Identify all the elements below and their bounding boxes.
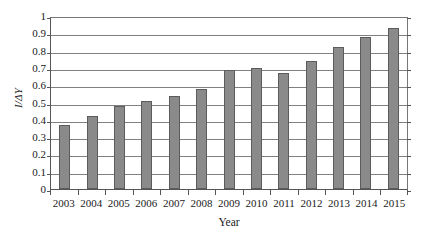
bar-2003 [59, 125, 70, 189]
x-tick-cell [133, 190, 161, 195]
x-tick-label: 2014 [353, 196, 381, 212]
y-tick-mark-right [407, 105, 411, 106]
x-tick-mark [243, 190, 244, 195]
bar-slot [78, 18, 105, 189]
bar-2005 [114, 106, 125, 189]
x-axis-tick-labels: 2003200420052006200720082009201020112012… [50, 196, 408, 212]
x-tick-label: 2007 [160, 196, 188, 212]
bar-slot [51, 18, 78, 189]
x-tick-label: 2003 [50, 196, 78, 212]
y-tick-label: 0.4 [14, 115, 46, 126]
x-tick-cell [188, 190, 216, 195]
x-tick-label: 2005 [105, 196, 133, 212]
x-tick-cell [380, 190, 408, 195]
y-tick-label: 0.8 [14, 46, 46, 57]
y-tick-label: 0 [14, 184, 46, 195]
y-tick-label: 0.1 [14, 167, 46, 178]
bar-slot [215, 18, 242, 189]
x-tick-cell [325, 190, 353, 195]
x-tick-cell [270, 190, 298, 195]
y-axis-tick-labels: 00.10.20.30.40.50.60.70.80.91 [14, 10, 46, 192]
bar-slot [106, 18, 133, 189]
y-tick-mark-right [407, 139, 411, 140]
plot-area [50, 17, 408, 190]
y-tick-label: 0.6 [14, 80, 46, 91]
x-tick-mark [407, 190, 408, 195]
y-tick-mark-right [407, 87, 411, 88]
bar-slot [188, 18, 215, 189]
x-tick-label: 2009 [215, 196, 243, 212]
y-tick-mark-right [407, 122, 411, 123]
x-tick-mark [380, 190, 381, 195]
x-tick-label: 2004 [78, 196, 106, 212]
y-tick-label: 0.5 [14, 98, 46, 109]
bar-2006 [141, 101, 152, 189]
x-tick-cell [243, 190, 271, 195]
y-tick-label: 0.7 [14, 63, 46, 74]
y-tick-label: 0.3 [14, 132, 46, 143]
x-tick-label: 2015 [380, 196, 408, 212]
bar-2009 [224, 70, 235, 189]
bar-slot [133, 18, 160, 189]
x-tick-mark [78, 190, 79, 195]
y-tick-mark-right [407, 174, 411, 175]
bar-2014 [360, 37, 371, 189]
x-tick-mark [188, 190, 189, 195]
y-tick-label: 1 [14, 11, 46, 22]
bar-slot [380, 18, 407, 189]
x-tick-label: 2013 [325, 196, 353, 212]
y-tick-mark-right [407, 53, 411, 54]
x-tick-cell [105, 190, 133, 195]
x-tick-mark [325, 190, 326, 195]
x-axis-tick-marks [50, 190, 408, 195]
bar-slot [352, 18, 379, 189]
x-tick-cell [160, 190, 188, 195]
x-tick-mark [160, 190, 161, 195]
bar-slot [270, 18, 297, 189]
x-tick-cell [298, 190, 326, 195]
x-axis-title: Year [50, 216, 408, 228]
bar-2010 [251, 68, 262, 189]
x-tick-mark [298, 190, 299, 195]
x-tick-mark [133, 190, 134, 195]
y-tick-mark-right [407, 18, 411, 19]
x-tick-label: 2011 [270, 196, 298, 212]
x-tick-mark [215, 190, 216, 195]
bar-slot [325, 18, 352, 189]
x-tick-label: 2006 [133, 196, 161, 212]
bar-slot [161, 18, 188, 189]
bar-2004 [87, 116, 98, 189]
x-tick-cell [215, 190, 243, 195]
y-tick-mark-right [407, 35, 411, 36]
x-tick-label: 2010 [243, 196, 271, 212]
bar-slot [243, 18, 270, 189]
x-tick-mark [105, 190, 106, 195]
x-tick-cell [78, 190, 106, 195]
bar-2011 [278, 73, 289, 189]
bar-slot [298, 18, 325, 189]
bar-2015 [388, 28, 399, 189]
bar-chart: I/ΔY 00.10.20.30.40.50.60.70.80.91 20032… [0, 0, 421, 242]
x-tick-mark [270, 190, 271, 195]
x-tick-label: 2012 [298, 196, 326, 212]
bars-container [51, 18, 407, 189]
bar-2012 [306, 61, 317, 189]
x-tick-mark [50, 190, 51, 195]
x-tick-cell [353, 190, 381, 195]
bar-2008 [196, 89, 207, 189]
x-tick-label: 2008 [188, 196, 216, 212]
y-tick-label: 0.2 [14, 149, 46, 160]
bar-2013 [333, 47, 344, 189]
y-tick-label: 0.9 [14, 28, 46, 39]
x-tick-mark [353, 190, 354, 195]
x-tick-cell [50, 190, 78, 195]
y-tick-mark-right [407, 70, 411, 71]
y-tick-mark-right [407, 156, 411, 157]
bar-2007 [169, 96, 180, 189]
